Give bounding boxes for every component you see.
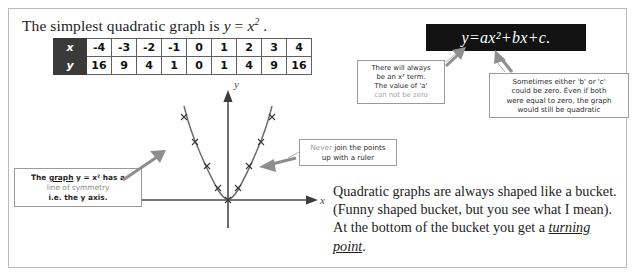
table-rowhead-x: x	[54, 39, 87, 57]
table-cell-x-0: -4	[87, 39, 112, 57]
table-rowhead-y: y	[54, 57, 87, 75]
data-point-marker	[181, 114, 187, 120]
parabola-graph: y x	[128, 78, 328, 233]
table-cell-y-5: 1	[212, 57, 237, 75]
table-cell-y-4: 0	[187, 57, 212, 75]
page-title-text: The simplest quadratic graph is	[22, 17, 224, 34]
table-cell-x-7: 3	[262, 39, 287, 57]
table-row-x: x -4 -3 -2 -1 0 1 2 3 4	[54, 39, 312, 57]
callout-symmetry-line1b: graph	[49, 173, 73, 182]
table-row-y: y 16 9 4 1 0 1 4 9 16	[54, 57, 312, 75]
callout-xterm-line1: There will always	[360, 64, 442, 73]
callout-ruler-line2: up with a ruler	[303, 153, 393, 163]
x-axis-arrowhead-icon	[306, 195, 318, 204]
x-axis-label: x	[319, 194, 325, 206]
table-cell-y-0: 16	[87, 57, 112, 75]
callout-symmetry-line1a: The	[31, 173, 49, 182]
y-axis-arrowhead-icon	[223, 90, 232, 102]
heading-equation-lhs: y	[224, 17, 231, 34]
general-quadratic-formula-box: y=ax²+bx+c.	[426, 24, 586, 51]
table-cell-y-2: 4	[137, 57, 162, 75]
callout-bc-line2: could be zero. Even if both	[493, 86, 625, 95]
graph-svg: y x	[128, 78, 328, 233]
table-cell-x-6: 2	[237, 39, 262, 57]
y-axis-label: y	[233, 78, 239, 90]
table-cell-y-8: 16	[287, 57, 312, 75]
callout-ruler-line1b: join the points	[332, 143, 386, 152]
callout-symmetry-line1c: y = x² has a	[73, 173, 125, 182]
table-cell-y-3: 1	[162, 57, 187, 75]
table-cell-x-3: -1	[162, 39, 187, 57]
table-cell-y-6: 4	[237, 57, 262, 75]
heading-trailing-text: .	[259, 17, 267, 34]
callout-symmetry-line3: i.e. the y axis.	[18, 193, 138, 203]
callout-ruler-line1: Never join the points	[303, 143, 393, 153]
table-cell-x-1: -3	[112, 39, 137, 57]
callout-bc-line1: Sometimes either 'b' or 'c'	[493, 77, 625, 86]
bucket-paragraph-part2: .	[362, 238, 366, 254]
bucket-explanation-paragraph: Quadratic graphs are always shaped like …	[333, 182, 625, 255]
callout-bc-line4: would still be quadratic	[493, 105, 625, 114]
callout-bc-line3: were equal to zero, the graph	[493, 96, 625, 105]
formula-text: y=ax²+bx+c.	[462, 29, 551, 47]
callout-xterm-line3: The value of 'a'	[360, 82, 442, 91]
callout-symmetry-line1: The graph y = x² has a	[18, 173, 138, 183]
callout-never-join-with-ruler: Never join the points up with a ruler	[299, 139, 397, 166]
callout-symmetry-line2: line of symmetry	[18, 183, 138, 193]
callout-xterm-line4: can not be zero	[360, 91, 442, 100]
table-cell-x-8: 4	[287, 39, 312, 57]
table-cell-y-1: 9	[112, 57, 137, 75]
page-title: The simplest quadratic graph is y = x2 .	[22, 16, 267, 35]
callout-x-squared-term: There will always be an x² term. The val…	[357, 60, 445, 104]
callout-line-of-symmetry: The graph y = x² has a line of symmetry …	[14, 168, 142, 207]
table-cell-x-5: 1	[212, 39, 237, 57]
heading-equation-equals: =	[231, 17, 248, 34]
values-table: x -4 -3 -2 -1 0 1 2 3 4 y 16 9 4 1 0 1 4…	[53, 38, 312, 75]
table-cell-y-7: 9	[262, 57, 287, 75]
table-cell-x-2: -2	[137, 39, 162, 57]
data-point-marker	[269, 114, 275, 120]
table-cell-x-4: 0	[187, 39, 212, 57]
callout-ruler-line1a: Never	[310, 143, 331, 152]
callout-b-or-c-zero: Sometimes either 'b' or 'c' could be zer…	[489, 73, 629, 118]
callout-xterm-line2: be an x² term.	[360, 73, 442, 82]
